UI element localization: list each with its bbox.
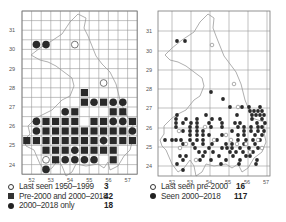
square-marker bbox=[71, 127, 78, 134]
filled-circle-marker bbox=[181, 121, 185, 125]
filled-circle-marker bbox=[181, 158, 185, 162]
square-marker bbox=[110, 147, 117, 154]
filled-circle-marker bbox=[254, 162, 258, 166]
filled-circle-marker bbox=[188, 138, 192, 142]
filled-circle-marker bbox=[129, 127, 137, 135]
latitude-label: 30 bbox=[9, 46, 15, 52]
filled-circle-marker bbox=[237, 162, 241, 166]
filled-circle-marker bbox=[248, 154, 252, 158]
latitude-label: 25 bbox=[9, 142, 15, 148]
square-marker bbox=[52, 127, 59, 134]
filled-circle-marker bbox=[217, 154, 221, 158]
filled-circle-marker bbox=[240, 105, 244, 109]
filled-circle-marker bbox=[42, 166, 50, 174]
square-marker bbox=[42, 127, 49, 134]
filled-circle-marker bbox=[230, 146, 234, 150]
filled-circle-marker bbox=[188, 129, 192, 133]
filled-circle-marker bbox=[225, 146, 229, 150]
filled-circle-marker bbox=[90, 156, 98, 164]
filled-circle-marker bbox=[224, 158, 228, 162]
filled-circle-marker bbox=[236, 133, 240, 137]
filled-circle-marker bbox=[179, 138, 183, 142]
square-marker bbox=[81, 127, 88, 134]
filled-circle-marker bbox=[195, 117, 199, 121]
square-marker bbox=[129, 118, 136, 125]
filled-circle-marker bbox=[238, 146, 242, 150]
square-marker bbox=[90, 137, 97, 144]
filled-circle-marker bbox=[236, 138, 240, 142]
coastline bbox=[24, 14, 134, 176]
square-marker bbox=[100, 127, 107, 134]
filled-circle-marker bbox=[250, 117, 254, 121]
filled-circle-marker bbox=[256, 146, 260, 150]
filled-circle-marker bbox=[256, 109, 260, 113]
filled-circle-marker bbox=[109, 118, 117, 126]
square-marker bbox=[129, 137, 136, 144]
open-circle-marker bbox=[212, 138, 216, 142]
filled-circle-marker bbox=[235, 113, 239, 117]
filled-circle-marker bbox=[247, 146, 251, 150]
filled-circle-marker bbox=[220, 125, 224, 129]
filled-circle-marker bbox=[178, 154, 182, 158]
filled-circle-marker bbox=[184, 154, 188, 158]
square-marker bbox=[119, 127, 126, 134]
filled-circle-marker bbox=[228, 105, 232, 109]
filled-circle-marker bbox=[170, 138, 174, 142]
latitude-label: 27 bbox=[9, 104, 15, 110]
filled-circle-marker bbox=[198, 158, 202, 162]
filled-circle-marker bbox=[188, 125, 192, 129]
filled-circle-marker bbox=[260, 117, 264, 121]
latitude-label: 26 bbox=[146, 125, 152, 131]
filled-circle-marker bbox=[249, 125, 253, 129]
filled-circle-marker bbox=[201, 129, 205, 133]
filled-circle-marker bbox=[204, 113, 208, 117]
filled-circle-marker bbox=[42, 41, 50, 49]
filled-circle-marker bbox=[236, 125, 240, 129]
filled-circle-marker bbox=[210, 142, 214, 146]
legend-row-seen-2000-2018: Seen 2000–2018 117 bbox=[150, 192, 282, 202]
filled-circle-marker bbox=[195, 121, 199, 125]
filled-circle-marker bbox=[234, 150, 238, 154]
open-circle-icon bbox=[8, 184, 14, 190]
square-marker bbox=[90, 118, 97, 125]
square-marker bbox=[42, 137, 49, 144]
filled-circle-marker bbox=[195, 133, 199, 137]
filled-circle-marker bbox=[201, 154, 205, 158]
right-map-legend: Last seen pre-2000 16 Seen 2000–2018 117 bbox=[150, 182, 282, 201]
filled-circle-marker bbox=[109, 98, 117, 106]
filled-circle-marker bbox=[252, 109, 256, 113]
filled-circle-marker bbox=[258, 105, 262, 109]
open-circle-marker bbox=[43, 156, 50, 163]
filled-circle-marker bbox=[174, 138, 178, 142]
open-circle-marker bbox=[184, 142, 188, 146]
filled-circle-marker bbox=[184, 117, 188, 121]
filled-circle-marker bbox=[195, 129, 199, 133]
filled-circle-marker bbox=[175, 162, 179, 166]
filled-circle-marker bbox=[81, 156, 89, 164]
filled-circle-marker bbox=[256, 125, 260, 129]
filled-circle-marker bbox=[258, 113, 262, 117]
filled-circle-marker bbox=[260, 109, 264, 113]
filled-circle-marker bbox=[228, 150, 232, 154]
square-marker bbox=[23, 137, 30, 144]
filled-circle-marker bbox=[221, 97, 225, 101]
filled-circle-marker bbox=[174, 121, 178, 125]
square-marker bbox=[52, 118, 59, 125]
filled-circle-marker bbox=[119, 118, 127, 126]
legend-row-last-seen-1950-1999: Last seen 1950–1999 3 bbox=[8, 182, 140, 192]
square-marker bbox=[119, 108, 126, 115]
filled-circle-marker bbox=[262, 129, 266, 133]
open-circle-marker bbox=[260, 146, 264, 150]
left-map-legend: Last seen 1950–1999 3 Pre-2000 and 2000–… bbox=[8, 182, 140, 211]
filled-circle-marker bbox=[183, 39, 187, 43]
filled-circle-marker bbox=[220, 133, 224, 137]
filled-circle-marker bbox=[250, 113, 254, 117]
square-marker bbox=[71, 108, 78, 115]
square-marker bbox=[52, 156, 59, 163]
square-marker bbox=[81, 89, 88, 96]
filled-circle-marker bbox=[262, 113, 266, 117]
filled-square-icon bbox=[8, 193, 14, 199]
open-circle-marker bbox=[244, 142, 248, 146]
square-marker bbox=[62, 118, 69, 125]
latitude-label: 24 bbox=[9, 162, 15, 168]
